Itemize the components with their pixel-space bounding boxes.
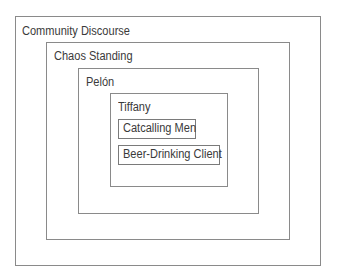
tiffany-label: Tiffany — [118, 100, 151, 114]
community-discourse-label: Community Discourse — [22, 24, 130, 38]
chaos-standing-label: Chaos Standing — [54, 49, 133, 63]
beer-drinking-client-label: Beer-Drinking Client — [123, 146, 222, 163]
catcalling-men-label: Catcalling Men — [123, 120, 196, 137]
catcalling-men-box: Catcalling Men — [118, 119, 196, 139]
pelon-label: Pelón — [86, 75, 114, 89]
beer-drinking-client-box: Beer-Drinking Client — [118, 145, 220, 165]
